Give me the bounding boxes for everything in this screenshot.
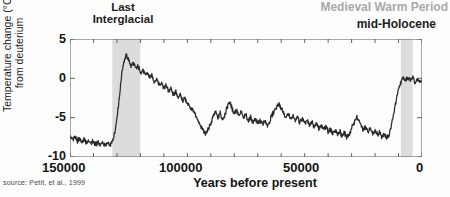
x-tick-50000: 50000: [283, 160, 319, 175]
x-tick-150000: 150000: [42, 160, 85, 175]
y-axis-title-line1: Temperature change (°C): [2, 0, 14, 114]
x-tick-100000: 100000: [159, 160, 202, 175]
plot-area: [70, 39, 422, 157]
annotation-mid-holocene: mid-Holocene: [357, 18, 436, 30]
annotation-last-interglacial: Last Interglacial: [78, 2, 168, 25]
y-tick-neg5: -5: [36, 110, 66, 124]
y-tick-0: 0: [36, 71, 66, 85]
x-axis-title: Years before present: [160, 176, 350, 190]
vostok-temperature-figure: Last Interglacial Medieval Warm Period m…: [0, 0, 450, 197]
shaded-bands-group: [112, 39, 412, 157]
y-axis-title-line2: from deuterium: [14, 0, 26, 114]
shaded-band-mid-holocene-band: [401, 39, 413, 157]
annotation-last-interglacial-line2: Interglacial: [78, 14, 168, 26]
annotation-last-interglacial-line1: Last: [111, 1, 135, 13]
x-tick-0: 0: [416, 160, 423, 175]
source-note: source: Petit, et al., 1999: [3, 178, 85, 187]
y-tick-5: 5: [36, 32, 66, 46]
y-axis-title: Temperature change (°C) from deuterium: [2, 0, 32, 114]
temperature-line-chart: [70, 39, 422, 157]
annotation-medieval-warm-period: Medieval Warm Period: [320, 1, 448, 13]
